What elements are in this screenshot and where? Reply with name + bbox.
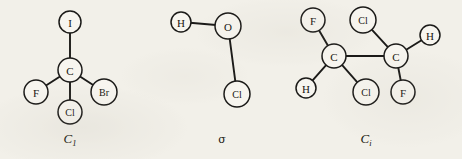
atom-label-h: H — [426, 30, 434, 42]
atom-label-c: C — [330, 51, 337, 63]
atom-label-br: Br — [99, 87, 110, 98]
atom-node-c: C — [322, 44, 346, 68]
bond-c2-f2 — [398, 67, 401, 81]
molecule-caption-subscript-3: i — [369, 138, 372, 148]
atom-node-h: H — [420, 25, 440, 45]
atom-node-cl: Cl — [224, 81, 250, 107]
atom-label-cl: Cl — [65, 107, 75, 118]
molecule-caption-subscript-1: 1 — [72, 138, 76, 148]
atom-node-h: H — [171, 12, 191, 32]
bond-h-o — [190, 23, 216, 25]
atom-node-h: H — [296, 78, 316, 98]
bond-o-cl — [230, 38, 236, 82]
atom-label-cl: Cl — [232, 89, 242, 100]
molecule-caption-1: C1 — [64, 131, 77, 148]
bond-c-br — [79, 76, 94, 86]
atom-label-f: F — [310, 15, 316, 27]
atom-node-o: O — [215, 13, 241, 39]
figure-canvas: ICFBrClHOClFClHCCHClF C1σCi — [0, 0, 462, 159]
atom-label-f: F — [400, 87, 406, 99]
atom-label-c: C — [66, 65, 73, 77]
molecule-caption-2: σ — [218, 133, 226, 146]
atom-label-c: C — [392, 51, 399, 63]
captions-layer: C1σCi — [64, 131, 373, 148]
atom-label-f: F — [33, 87, 39, 99]
bond-c-f — [45, 76, 61, 86]
molecule-caption-3: Ci — [360, 131, 372, 148]
atom-node-f: F — [24, 80, 48, 104]
atom-node-cl: Cl — [353, 79, 379, 105]
atoms-layer: ICFBrClHOClFClHCCHClF — [24, 7, 440, 124]
bond-c2-h2 — [405, 40, 422, 50]
atom-node-br: Br — [91, 79, 117, 105]
atom-node-cl: Cl — [58, 100, 82, 124]
atom-node-i: I — [59, 11, 81, 33]
atom-node-cl: Cl — [350, 7, 376, 33]
atom-node-f: F — [301, 8, 325, 32]
bond-c2-cl1 — [371, 29, 388, 48]
atom-label-h: H — [302, 83, 310, 95]
atom-node-c: C — [58, 58, 82, 82]
atom-label-cl: Cl — [358, 15, 368, 26]
atom-label-i: I — [68, 17, 72, 29]
bond-c1-cl2 — [341, 64, 358, 83]
atom-label-o: O — [224, 21, 232, 33]
bond-c1-f1 — [319, 30, 329, 47]
bond-c1-h1 — [312, 64, 327, 81]
atom-label-h: H — [177, 17, 185, 29]
molecular-structures-figure: ICFBrClHOClFClHCCHClF C1σCi — [0, 0, 462, 159]
atom-node-c: C — [384, 44, 408, 68]
atom-label-cl: Cl — [361, 87, 371, 98]
atom-node-f: F — [391, 80, 415, 104]
